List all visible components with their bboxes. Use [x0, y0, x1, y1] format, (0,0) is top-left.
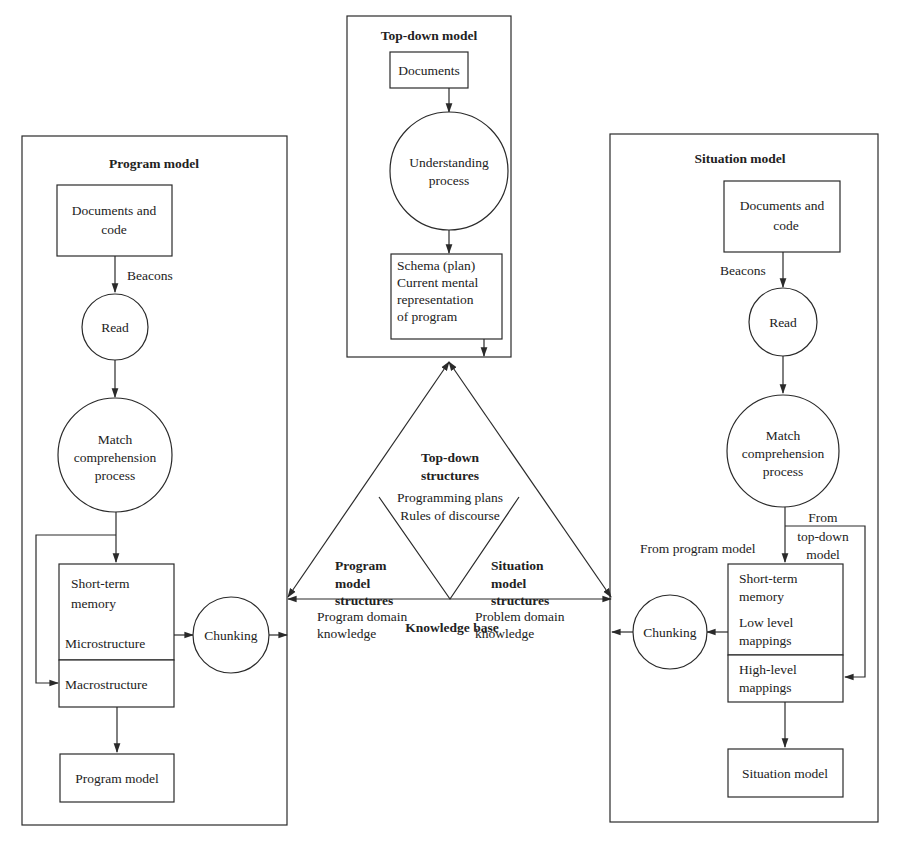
program-match-label-3: process: [95, 468, 136, 483]
situation-structures-title-2: model: [491, 576, 526, 591]
schema-label-1: Schema (plan): [397, 258, 475, 273]
top-down-model-panel: Top-down model Documents Understanding p…: [347, 16, 511, 357]
program-structures-title-1: Program: [335, 558, 387, 573]
from-topdown-label-1: From: [808, 510, 838, 525]
schema-label-3: representation: [397, 292, 474, 307]
program-docs-label-2: code: [101, 222, 126, 237]
knowledge-base-label: Knowledge base: [405, 620, 498, 635]
understanding-label-1: Understanding: [409, 155, 489, 170]
from-topdown-label-2: top-down: [797, 529, 849, 544]
program-structures-title-2: model: [335, 576, 370, 591]
program-structures-item-2: knowledge: [317, 626, 376, 641]
situation-low-label-1: Low level: [739, 615, 794, 630]
understanding-process-circle: [390, 112, 508, 230]
top-down-structures-title-2: structures: [421, 468, 479, 483]
schema-label-2: Current mental: [397, 275, 479, 290]
knowledge-base: Top-down structures Programming plans Ru…: [288, 362, 611, 641]
situation-match-label-3: process: [763, 464, 804, 479]
top-down-documents-label: Documents: [398, 63, 460, 78]
program-structures-item-1: Program domain: [317, 609, 408, 624]
situation-high-label-1: High-level: [739, 662, 797, 677]
situation-title: Situation model: [694, 151, 785, 166]
program-documents-box: [57, 185, 172, 256]
program-stm-label-1: Short-term: [71, 576, 130, 591]
top-down-structures-title-1: Top-down: [421, 450, 480, 465]
situation-stm-label-2: memory: [739, 589, 784, 604]
understanding-label-2: process: [429, 173, 470, 188]
situation-low-label-2: mappings: [739, 633, 792, 648]
situation-stm-label-1: Short-term: [739, 571, 798, 586]
situation-match-label-1: Match: [766, 428, 801, 443]
situation-match-label-2: comprehension: [742, 446, 825, 461]
situation-docs-label-2: code: [773, 218, 798, 233]
comprehension-model-diagram: Top-down model Documents Understanding p…: [0, 0, 898, 846]
program-structures-title-3: structures: [335, 593, 393, 608]
top-down-item-2: Rules of discourse: [400, 508, 500, 523]
program-match-label-2: comprehension: [74, 450, 157, 465]
situation-model-output-label: Situation model: [742, 766, 828, 781]
schema-label-4: of program: [397, 309, 458, 324]
program-micro-label: Microstructure: [65, 636, 145, 651]
situation-docs-label-1: Documents and: [740, 198, 825, 213]
situation-beacons-label: Beacons: [720, 263, 766, 278]
program-beacons-label: Beacons: [127, 268, 173, 283]
situation-read-label: Read: [769, 315, 797, 330]
situation-structures-title-3: structures: [491, 593, 549, 608]
program-title: Program model: [109, 156, 199, 171]
program-read-label: Read: [101, 320, 129, 335]
situation-chunking-label: Chunking: [643, 625, 697, 640]
program-match-label-1: Match: [98, 432, 133, 447]
situation-documents-box: [724, 181, 840, 252]
situation-model-panel: Situation model Documents and code Beaco…: [610, 134, 878, 822]
program-chunking-label: Chunking: [204, 628, 258, 643]
top-down-item-1: Programming plans: [397, 490, 503, 505]
program-docs-label-1: Documents and: [72, 203, 157, 218]
situation-high-label-2: mappings: [739, 680, 792, 695]
program-macro-label: Macrostructure: [65, 677, 147, 692]
from-topdown-label-3: model: [806, 547, 840, 562]
situation-structures-title-1: Situation: [491, 558, 544, 573]
program-stm-label-2: memory: [71, 596, 116, 611]
program-model-output-label: Program model: [75, 771, 159, 786]
from-program-model-label: From program model: [640, 541, 756, 556]
program-model-panel: Program model Documents and code Beacons…: [22, 136, 287, 825]
top-down-title: Top-down model: [381, 28, 478, 43]
